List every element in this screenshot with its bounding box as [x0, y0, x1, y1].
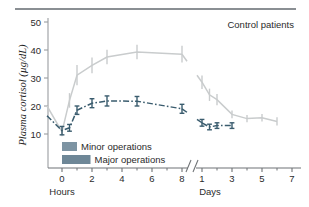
y-tick-group: 1020304050 — [30, 17, 48, 140]
x-axis-title-days: Days — [199, 186, 221, 197]
y-tick-label: 50 — [30, 17, 41, 28]
series-major-operations — [47, 45, 277, 137]
x-tick-group: 024681357 — [59, 168, 294, 184]
y-tick-label: 30 — [30, 73, 41, 84]
series-line — [47, 101, 182, 131]
operation-bar — [62, 155, 91, 164]
y-tick-label: 20 — [30, 101, 41, 112]
chart-canvas: 1020304050024681357HoursDaysPlasma corti… — [0, 0, 309, 207]
x-tick-label: 1 — [199, 173, 204, 184]
series-minor-operations — [47, 96, 234, 135]
chart-annotation: Control patients — [227, 19, 294, 30]
axis-break-mark — [186, 160, 191, 172]
operation-bar — [62, 142, 77, 151]
series-line — [182, 109, 187, 113]
x-axis-title-hours: Hours — [49, 186, 75, 197]
operation-bar-label: Major operations — [95, 154, 166, 165]
operation-bar-label: Minor operations — [81, 141, 152, 152]
series-line — [47, 52, 182, 132]
series-line — [197, 75, 202, 82]
figure-container: 1020304050024681357HoursDaysPlasma corti… — [0, 0, 309, 207]
x-tick-label: 7 — [289, 173, 294, 184]
y-tick-label: 10 — [30, 129, 41, 140]
operation-bars-group: Minor operationsMajor operations — [62, 141, 166, 165]
x-tick-label: 0 — [59, 173, 64, 184]
x-tick-label: 5 — [259, 173, 264, 184]
y-axis-title: Plasma cortisol (µg/dL) — [17, 44, 29, 147]
x-tick-label: 8 — [179, 173, 184, 184]
y-tick-label: 40 — [30, 45, 41, 56]
axis-break-mark — [193, 160, 198, 172]
x-tick-label: 2 — [89, 173, 94, 184]
x-tick-label: 3 — [229, 173, 234, 184]
series-line — [202, 82, 277, 121]
x-tick-label: 6 — [149, 173, 154, 184]
x-tick-label: 4 — [119, 173, 124, 184]
series-line — [182, 54, 187, 61]
